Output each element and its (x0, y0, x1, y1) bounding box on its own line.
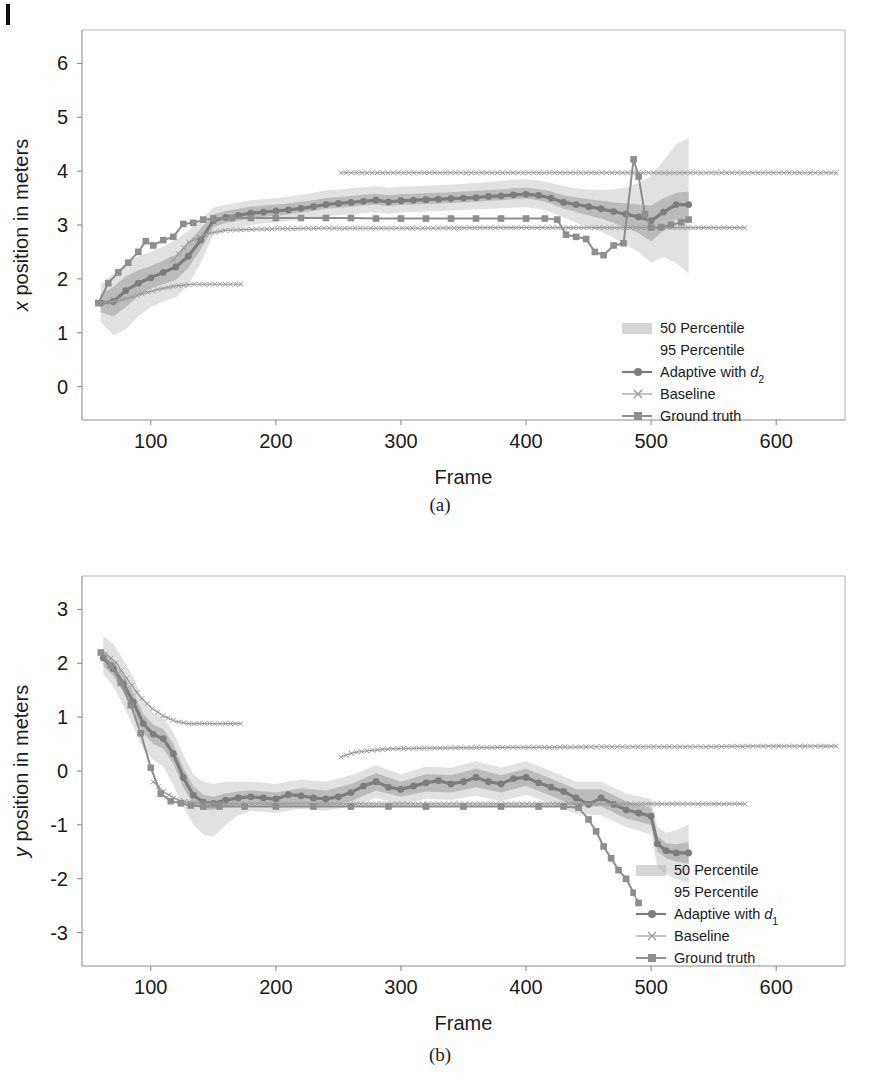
x-tick-label: 500 (634, 430, 667, 452)
x-tick-label: 300 (384, 976, 417, 998)
x-axis-title: Frame (435, 1012, 493, 1034)
y-tick-label: -3 (50, 922, 68, 944)
legend-item-label: 95 Percentile (660, 342, 745, 358)
legend-swatch-95 (636, 887, 666, 898)
x-tick-label: 400 (509, 976, 542, 998)
legend-swatch-95 (622, 345, 652, 356)
x-tick-label: 600 (760, 976, 793, 998)
figure-container: 1002003004005006000123456Framex position… (0, 0, 880, 1092)
y-axis-title: y position in meters (10, 685, 32, 859)
legend-item-label: 50 Percentile (674, 862, 759, 878)
y-tick-label: 1 (57, 322, 68, 344)
y-tick-label: 3 (57, 214, 68, 236)
x-tick-label: 600 (760, 430, 793, 452)
x-axis-title: Frame (435, 466, 493, 488)
legend-swatch-50 (622, 323, 652, 334)
chart-panel-b: 100200300400500600-3-2-10123Framey posit… (0, 546, 880, 1092)
subcaption-a: (a) (0, 494, 880, 516)
y-tick-label: 0 (57, 376, 68, 398)
plot-area (95, 138, 839, 335)
chart-legend: 50 Percentile95 PercentileAdaptive with … (636, 862, 778, 966)
legend-item-label: Adaptive with d2 (660, 364, 764, 385)
legend-item-label: Ground truth (660, 408, 741, 424)
legend-item-label: Adaptive with d1 (674, 906, 778, 927)
percentile-band (101, 138, 689, 335)
y-tick-label: 6 (57, 52, 68, 74)
series-markers (339, 744, 839, 760)
x-tick-label: 100 (134, 976, 167, 998)
x-tick-label: 300 (384, 430, 417, 452)
chart-legend: 50 Percentile95 PercentileAdaptive with … (622, 320, 764, 424)
subcaption-b: (b) (0, 1044, 880, 1066)
y-axis-title: x position in meters (10, 139, 32, 312)
legend-item-label: 95 Percentile (674, 884, 759, 900)
y-tick-label: 4 (57, 160, 68, 182)
chart-panel-a: 1002003004005006000123456Framex position… (0, 0, 880, 546)
legend-marker-circle (634, 368, 642, 376)
series-markers (100, 654, 692, 856)
legend-item-label: Ground truth (674, 950, 755, 966)
legend-swatch-50 (636, 865, 666, 876)
x-tick-label: 200 (259, 430, 292, 452)
x-tick-label: 400 (509, 430, 542, 452)
y-tick-label: -1 (50, 814, 68, 836)
legend-item-label: Baseline (660, 386, 716, 402)
percentile-band (103, 650, 688, 863)
series-line (103, 658, 688, 853)
legend-marker-circle (648, 910, 656, 918)
x-tick-label: 100 (134, 430, 167, 452)
y-tick-label: 1 (57, 706, 68, 728)
chart-a-svg: 1002003004005006000123456Framex position… (0, 0, 880, 500)
x-tick-label: 200 (259, 976, 292, 998)
chart-b-svg: 100200300400500600-3-2-10123Framey posit… (0, 546, 880, 1046)
legend-item-label: Baseline (674, 928, 730, 944)
y-tick-label: 2 (57, 652, 68, 674)
legend-marker-square (634, 412, 642, 420)
y-tick-label: 3 (57, 598, 68, 620)
legend-item-label: 50 Percentile (660, 320, 745, 336)
y-tick-label: -2 (50, 868, 68, 890)
legend-marker-square (648, 954, 656, 962)
y-tick-label: 5 (57, 106, 68, 128)
y-tick-label: 2 (57, 268, 68, 290)
x-tick-label: 500 (634, 976, 667, 998)
y-tick-label: 0 (57, 760, 68, 782)
